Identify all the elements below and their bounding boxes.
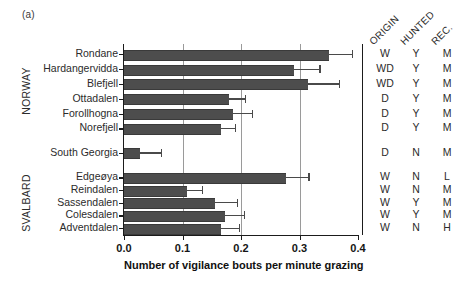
attribute-cell-origin: W xyxy=(380,221,390,233)
error-bar-line xyxy=(329,54,352,55)
attribute-cell-origin: WD xyxy=(376,77,394,89)
error-bar-cap xyxy=(239,224,240,232)
attribute-cell-hunted: Y xyxy=(412,62,419,74)
category-label: Edgeøya xyxy=(76,170,118,182)
attribute-cell-hunted: Y xyxy=(412,47,419,59)
bar-row xyxy=(124,94,358,103)
attribute-cell-hunted: Y xyxy=(412,121,419,133)
bar-row xyxy=(124,186,358,195)
error-bar-cap xyxy=(252,110,253,118)
x-axis-title: Number of vigilance bouts per minute gra… xyxy=(124,259,358,271)
attribute-cell-rec: M xyxy=(443,121,452,133)
error-bar-cap xyxy=(244,211,245,219)
group-label-svalbard: SVALBARD xyxy=(20,174,32,232)
bar xyxy=(124,65,294,76)
category-label: Ottadalen xyxy=(72,92,118,104)
attribute-cell-rec: M xyxy=(443,92,452,104)
bar xyxy=(124,198,215,209)
bar-row xyxy=(124,148,358,157)
group-label-norway: NORWAY xyxy=(20,68,32,116)
attribute-header-rec: REC. xyxy=(429,22,454,47)
plot-area: 0.00.10.20.30.4 xyxy=(124,44,358,235)
category-label: Hardangervidda xyxy=(43,62,118,74)
attribute-cell-origin: W xyxy=(380,196,390,208)
x-tick-label-0.2: 0.2 xyxy=(233,242,248,254)
error-bar-cap xyxy=(235,124,236,132)
category-label: Rondane xyxy=(75,47,118,59)
attribute-cell-hunted: Y xyxy=(412,77,419,89)
bar xyxy=(124,109,233,120)
bar-row xyxy=(124,211,358,220)
error-bar-line xyxy=(294,69,319,70)
error-bar-line xyxy=(221,228,239,229)
attribute-cell-rec: M xyxy=(443,208,452,220)
x-tick-0.2 xyxy=(241,235,242,240)
attribute-cell-rec: H xyxy=(443,221,451,233)
bar-row xyxy=(124,124,358,133)
x-tick-0.0 xyxy=(124,235,125,240)
x-tick-label-0.1: 0.1 xyxy=(175,242,190,254)
category-label: Norefjell xyxy=(79,121,118,133)
attribute-cell-hunted: Y xyxy=(412,92,419,104)
error-bar-line xyxy=(229,98,245,99)
error-bar-cap xyxy=(161,149,162,157)
attribute-cell-hunted: N xyxy=(412,146,420,158)
attribute-cell-origin: W xyxy=(380,47,390,59)
attribute-cell-origin: W xyxy=(380,208,390,220)
attribute-cell-hunted: Y xyxy=(412,196,419,208)
error-bar-cap xyxy=(237,199,238,207)
x-tick-label-0.3: 0.3 xyxy=(292,242,307,254)
attribute-cell-rec: M xyxy=(443,146,452,158)
attribute-cell-hunted: Y xyxy=(412,208,419,220)
bar-row xyxy=(124,224,358,233)
bar xyxy=(124,148,140,159)
attribute-cell-origin: W xyxy=(380,170,390,182)
attribute-cell-rec: M xyxy=(443,196,452,208)
error-bar-line xyxy=(308,83,338,84)
x-tick-label-0.4: 0.4 xyxy=(350,242,365,254)
category-label: Reindalen xyxy=(71,183,118,195)
attribute-header-origin: ORIGIN xyxy=(367,13,401,47)
error-bar-cap xyxy=(352,50,353,58)
error-bar-line xyxy=(187,190,202,191)
bar-row xyxy=(124,79,358,88)
attribute-table-separator xyxy=(362,44,363,235)
x-tick-0.3 xyxy=(300,235,301,240)
category-label: Adventdalen xyxy=(60,221,118,233)
attribute-cell-origin: W xyxy=(380,183,390,195)
bar xyxy=(124,173,286,184)
bar xyxy=(124,186,187,197)
panel-letter: (a) xyxy=(22,9,35,20)
category-label: South Georgia xyxy=(50,146,118,158)
error-bar-line xyxy=(225,215,244,216)
attribute-cell-rec: M xyxy=(443,62,452,74)
bar-row xyxy=(124,65,358,74)
bar-row xyxy=(124,50,358,59)
category-label: Colesdalen xyxy=(65,208,118,220)
attribute-table: ORIGINHUNTEDREC.WYMWDYMWDYMDYMDYMDYMDNMW… xyxy=(362,44,463,235)
attribute-cell-hunted: Y xyxy=(412,107,419,119)
error-bar-cap xyxy=(308,173,309,181)
category-label: Forollhogna xyxy=(63,107,118,119)
error-bar-cap xyxy=(319,65,320,73)
category-label: Sassendalen xyxy=(57,196,118,208)
attribute-cell-hunted: N xyxy=(412,183,420,195)
attribute-cell-origin: D xyxy=(381,121,389,133)
error-bar-line xyxy=(215,202,237,203)
error-bar-cap xyxy=(339,80,340,88)
category-label-column: RondaneHardangerviddaBlefjellOttadalenFo… xyxy=(0,44,118,235)
attribute-cell-hunted: N xyxy=(412,221,420,233)
attribute-cell-rec: M xyxy=(443,47,452,59)
bar xyxy=(124,79,308,90)
error-bar-line xyxy=(140,152,160,153)
x-tick-0.4 xyxy=(358,235,359,240)
error-bar-line xyxy=(286,177,308,178)
error-bar-line xyxy=(221,128,236,129)
category-label: Blefjell xyxy=(87,77,118,89)
attribute-cell-rec: M xyxy=(443,77,452,89)
bar xyxy=(124,94,229,105)
bar-row xyxy=(124,198,358,207)
x-tick-label-0.0: 0.0 xyxy=(116,242,131,254)
bar xyxy=(124,50,329,61)
x-tick-0.1 xyxy=(183,235,184,240)
